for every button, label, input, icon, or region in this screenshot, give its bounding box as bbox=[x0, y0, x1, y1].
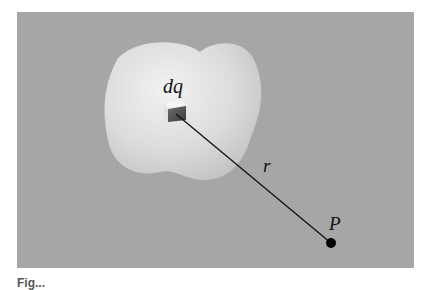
r-label: r bbox=[263, 155, 271, 176]
charge-element-cube bbox=[164, 100, 186, 122]
field-point bbox=[326, 238, 336, 248]
p-label: P bbox=[328, 213, 341, 234]
dq-label: dq bbox=[163, 75, 183, 98]
figure-caption: Fig... bbox=[17, 276, 45, 290]
